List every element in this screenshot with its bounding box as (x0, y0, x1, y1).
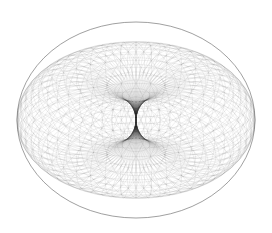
torus-figure (0, 0, 272, 233)
torus-mesh-lines (17, 42, 255, 199)
torus-wireframe-graphic (0, 0, 272, 233)
torus-mesh-path (17, 42, 255, 199)
